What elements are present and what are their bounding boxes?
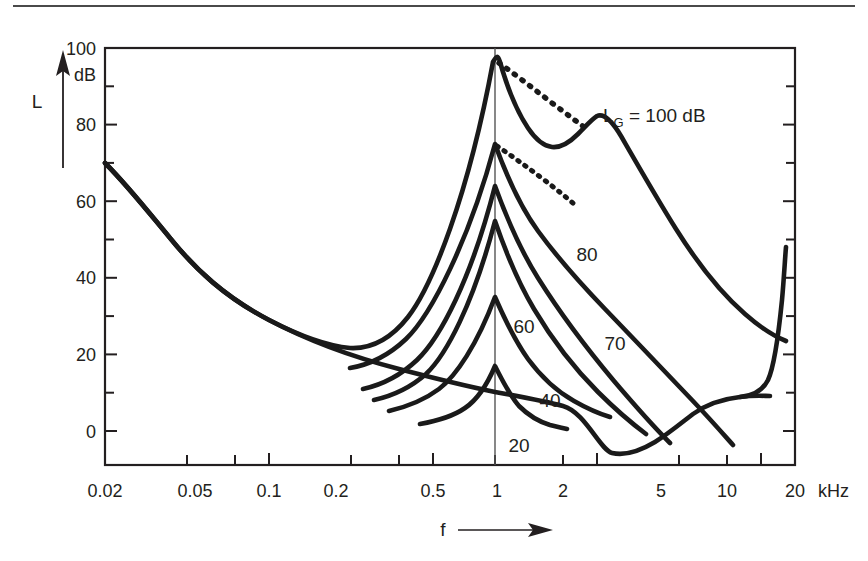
y-tick-60: 60 — [76, 192, 96, 212]
curve-100db — [105, 57, 786, 348]
x-tick-5: 5 — [656, 481, 666, 501]
x-tick-2: 2 — [558, 481, 568, 501]
x-tick-20: 20 — [785, 481, 805, 501]
annotation-lg-prefix: L — [603, 105, 614, 126]
y-tick-40: 40 — [76, 268, 96, 288]
chart-svg: 100 80 60 40 20 0 dB L 0.02 0.05 0.1 — [0, 0, 868, 561]
y-axis-title: L — [32, 91, 43, 112]
figure-page: 100 80 60 40 20 0 dB L 0.02 0.05 0.1 — [0, 0, 868, 561]
y-axis-title-group: L — [32, 50, 70, 168]
annotation-60: 60 — [513, 316, 534, 337]
annotation-lg-subscript: G — [614, 115, 624, 130]
annotation-40: 40 — [539, 390, 560, 411]
y-axis-unit-db: dB — [74, 65, 96, 85]
x-tick-0.02: 0.02 — [87, 481, 122, 501]
y-axis-ticks — [105, 48, 117, 431]
y-tick-20: 20 — [76, 345, 96, 365]
x-tick-0.2: 0.2 — [323, 481, 348, 501]
masking-pattern-chart: 100 80 60 40 20 0 dB L 0.02 0.05 0.1 — [0, 0, 868, 561]
x-tick-labels: 0.02 0.05 0.1 0.2 0.5 1 2 5 10 20 kHz — [87, 481, 849, 501]
annotation-lg-100db: LG = 100 dB — [603, 105, 706, 130]
annotation-20: 20 — [508, 435, 529, 456]
x-axis-unit-khz: kHz — [818, 481, 849, 501]
x-axis-ticks — [105, 453, 795, 465]
x-axis-arrow-icon — [458, 523, 553, 537]
x-axis-title: f — [440, 519, 446, 540]
x-tick-1: 1 — [492, 481, 502, 501]
x-tick-0.5: 0.5 — [420, 481, 445, 501]
y-axis-arrow-icon — [56, 50, 70, 168]
curve-threshold — [105, 163, 770, 454]
y-tick-labels: 100 80 60 40 20 0 dB — [66, 39, 96, 442]
x-tick-0.05: 0.05 — [177, 481, 212, 501]
curve-threshold-right-rise — [740, 247, 786, 397]
x-tick-10: 10 — [717, 481, 737, 501]
y-tick-0: 0 — [86, 422, 96, 442]
y-tick-80: 80 — [76, 115, 96, 135]
annotation-lg-equals: = 100 dB — [624, 105, 706, 126]
y-tick-100: 100 — [66, 39, 96, 59]
x-axis-minor-ticks-right — [783, 48, 795, 431]
x-tick-0.1: 0.1 — [256, 481, 281, 501]
annotation-70: 70 — [604, 333, 625, 354]
annotation-80: 80 — [576, 244, 597, 265]
x-axis-title-group: f — [440, 519, 553, 540]
